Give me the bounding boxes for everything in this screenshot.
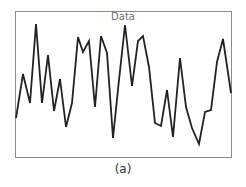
figure-caption: (a) [0, 162, 246, 176]
data-series-line [16, 24, 231, 144]
line-plot [0, 0, 246, 187]
